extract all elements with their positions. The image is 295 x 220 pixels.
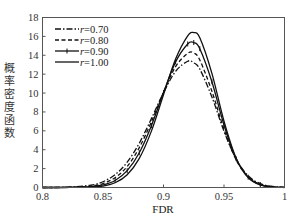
x-axis-label: FDR: [152, 203, 174, 215]
y-tick-label: 6: [33, 125, 38, 136]
y-label-char: 概: [2, 62, 16, 75]
y-tick-label: 8: [33, 106, 38, 117]
series-line-r070: [43, 61, 285, 188]
legend-label: r=0.70: [80, 24, 108, 35]
y-axis-label: 概率密度函数: [2, 62, 16, 140]
x-tick-label: 0.85: [94, 191, 112, 202]
y-label-char: 密: [2, 88, 16, 101]
series-line-r090: [43, 42, 285, 188]
y-label-char: 率: [2, 75, 16, 88]
y-tick-label: 16: [28, 31, 39, 42]
y-tick-label: 4: [33, 144, 39, 155]
legend-label: r=1.00: [80, 57, 108, 68]
y-label-char: 数: [2, 127, 16, 140]
series-line-r100: [43, 32, 285, 187]
y-label-char: 度: [2, 101, 16, 114]
y-tick-label: 12: [28, 69, 39, 80]
y-label-char: 函: [2, 114, 16, 127]
y-tick-label: 18: [28, 12, 39, 23]
x-tick-label: 1: [282, 191, 287, 202]
pdf-chart: 024681012141618 0.80.850.90.951 FDR r=0.…: [0, 0, 295, 220]
y-tick-label: 2: [33, 163, 38, 174]
x-tick-label: 0.95: [215, 191, 233, 202]
x-tick-label: 0.9: [157, 191, 170, 202]
y-tick-label: 10: [28, 88, 39, 99]
x-tick-label: 0.8: [36, 191, 49, 202]
legend-label: r=0.90: [80, 46, 108, 57]
series-line-r080: [43, 52, 285, 188]
plot-curves: [43, 32, 285, 187]
legend: r=0.70r=0.80r=0.90r=1.00: [55, 24, 108, 68]
y-tick-label: 14: [28, 50, 39, 61]
plot-frame: [43, 18, 285, 188]
legend-label: r=0.80: [80, 35, 108, 46]
